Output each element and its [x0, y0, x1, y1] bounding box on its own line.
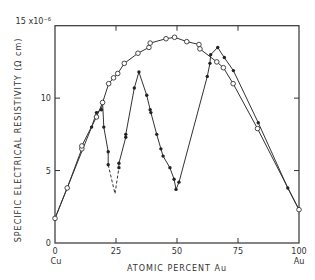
filled-circle-marker — [216, 46, 219, 49]
y-tick-label: 10 — [41, 93, 51, 103]
x-tick-label: 25 — [111, 246, 121, 256]
filled-circle-marker — [148, 108, 151, 111]
data-markers — [53, 35, 302, 221]
plot-frame — [55, 26, 299, 243]
filled-circle-marker — [124, 136, 127, 139]
open-circle-marker — [147, 45, 152, 50]
filled-circle-marker — [257, 121, 260, 124]
curve-filled-circles — [55, 103, 108, 219]
open-circle-marker — [255, 126, 260, 131]
x-tick-label: 50 — [172, 246, 182, 256]
open-circle-marker — [148, 41, 153, 46]
filled-circle-marker — [149, 111, 152, 114]
open-circle-marker — [172, 35, 177, 40]
open-circle-marker — [136, 51, 141, 56]
filled-circle-marker — [133, 86, 136, 89]
filled-circle-marker — [172, 178, 175, 181]
open-circle-marker — [221, 65, 226, 70]
filled-circle-marker — [174, 188, 177, 191]
curve-filled-circles — [119, 47, 299, 209]
filled-circle-marker — [159, 147, 162, 150]
open-circle-marker — [231, 81, 236, 86]
y-tick-label: 0 — [46, 238, 51, 248]
filled-circle-marker — [206, 75, 209, 78]
filled-circle-marker — [232, 69, 235, 72]
open-circle-marker — [100, 100, 105, 105]
filled-circle-marker — [161, 154, 164, 157]
open-circle-marker — [297, 207, 302, 212]
open-circle-marker — [214, 60, 219, 65]
open-circle-marker — [115, 71, 120, 76]
curve-filled-circles — [108, 165, 119, 194]
filled-circle-marker — [208, 62, 211, 65]
y-multiplier-label: 15 x10⁻⁶ — [16, 16, 51, 26]
open-circle-marker — [198, 47, 203, 52]
resistivity-chart: 02550751000510 ATOMIC PERCENT Au SPECIFI… — [0, 0, 315, 280]
open-circle-marker — [53, 216, 58, 221]
x-tick-label: 75 — [233, 246, 243, 256]
open-circle-marker — [197, 42, 202, 47]
x-tick-label: 100 — [291, 246, 306, 256]
open-circle-marker — [80, 144, 85, 149]
x-end-label-cu: Cu — [51, 256, 62, 266]
filled-circle-marker — [100, 108, 103, 111]
filled-circle-marker — [223, 56, 226, 59]
open-circle-marker — [94, 115, 99, 120]
open-circle-marker — [122, 61, 127, 66]
open-circle-marker — [111, 76, 116, 81]
filled-circle-marker — [117, 162, 120, 165]
filled-circle-marker — [168, 166, 171, 169]
filled-circle-marker — [102, 125, 105, 128]
filled-circle-marker — [106, 150, 109, 153]
x-axis-title: ATOMIC PERCENT Au — [127, 264, 227, 273]
x-tick-label: 0 — [52, 246, 57, 256]
filled-circle-marker — [95, 111, 98, 114]
filled-circle-marker — [124, 133, 127, 136]
open-circle-marker — [65, 186, 70, 191]
open-circle-marker — [164, 36, 169, 41]
y-axis-title: SPECIFIC ELECTRICAL RESISTIVITY (Ω cm) — [14, 38, 23, 243]
open-circle-marker — [106, 81, 111, 86]
filled-circle-marker — [90, 125, 93, 128]
x-end-label-au: Au — [294, 256, 305, 266]
filled-circle-marker — [145, 94, 148, 97]
filled-circle-marker — [117, 166, 120, 169]
filled-circle-marker — [286, 186, 289, 189]
y-tick-label: 5 — [46, 166, 51, 176]
filled-circle-marker — [155, 133, 158, 136]
filled-circle-marker — [137, 70, 140, 73]
filled-circle-marker — [106, 163, 109, 166]
filled-circle-marker — [209, 53, 212, 56]
open-circle-marker — [184, 39, 189, 44]
filled-circle-marker — [177, 180, 180, 183]
